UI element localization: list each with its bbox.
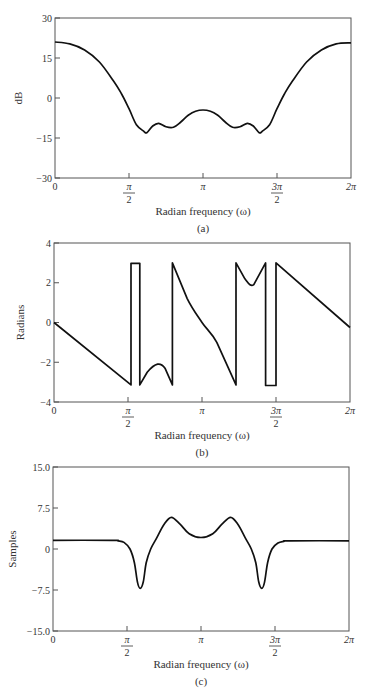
x-tick-label: 0 <box>51 634 56 645</box>
x-tick-label: 2π <box>344 634 355 645</box>
figure-caption: (a) <box>197 222 210 235</box>
x-tick-label: 2π <box>345 405 356 416</box>
x-tick-label: 3π <box>269 634 281 645</box>
chart-b: 420−2−40π2π3π22πRadian frequency (ω)Radi… <box>14 238 356 460</box>
data-curve <box>54 263 350 386</box>
data-curve <box>55 42 351 133</box>
x-tick-label: 2π <box>346 181 357 192</box>
x-tick-denominator: 2 <box>275 194 280 205</box>
x-tick-label: 0 <box>52 405 57 416</box>
data-curve <box>53 517 349 588</box>
y-tick-label: 15.0 <box>33 462 51 473</box>
y-tick-label: −15 <box>36 133 52 144</box>
chart-c: 15.07.50−7.5−15.00π2π3π22πRadian frequen… <box>6 462 355 689</box>
figure-canvas: 30150−15−300π2π3π22πRadian frequency (ω)… <box>0 0 372 697</box>
x-tick-label: π <box>198 634 204 645</box>
x-tick-label: π <box>126 181 132 192</box>
x-axis-title: Radian frequency (ω) <box>155 205 251 218</box>
figure-caption: (c) <box>195 675 208 688</box>
x-tick-label: 0 <box>53 181 58 192</box>
y-axis-title: Samples <box>6 530 18 567</box>
figure-caption: (b) <box>196 446 209 459</box>
x-tick-label: π <box>199 405 205 416</box>
y-axis-title: Radians <box>14 305 26 340</box>
x-tick-label: π <box>124 634 130 645</box>
y-tick-label: −4 <box>40 397 51 408</box>
y-tick-label: 15 <box>42 53 52 64</box>
chart-a: 30150−15−300π2π3π22πRadian frequency (ω)… <box>12 13 357 236</box>
y-tick-label: 0 <box>46 317 51 328</box>
y-tick-label: −15.0 <box>27 626 50 637</box>
x-tick-denominator: 2 <box>127 194 132 205</box>
y-tick-label: 0 <box>45 544 50 555</box>
x-tick-denominator: 2 <box>273 647 278 658</box>
y-tick-label: −30 <box>36 173 52 184</box>
x-tick-label: 3π <box>270 405 282 416</box>
x-tick-denominator: 2 <box>126 418 131 429</box>
x-axis-title: Radian frequency (ω) <box>153 658 249 671</box>
y-axis-title: dB <box>12 92 24 105</box>
plot-frame <box>53 467 349 631</box>
y-tick-label: −2 <box>40 357 51 368</box>
x-tick-denominator: 2 <box>125 647 130 658</box>
x-tick-label: π <box>125 405 131 416</box>
x-axis-title: Radian frequency (ω) <box>154 429 250 442</box>
y-tick-label: −7.5 <box>32 585 50 596</box>
x-tick-label: π <box>200 181 206 192</box>
y-tick-label: 30 <box>42 13 52 24</box>
y-tick-label: 2 <box>46 277 51 288</box>
x-tick-label: 3π <box>271 181 283 192</box>
y-tick-label: 4 <box>46 238 51 249</box>
x-tick-denominator: 2 <box>274 418 279 429</box>
y-tick-label: 7.5 <box>38 503 51 514</box>
y-tick-label: 0 <box>47 93 52 104</box>
plot-frame <box>55 18 351 178</box>
